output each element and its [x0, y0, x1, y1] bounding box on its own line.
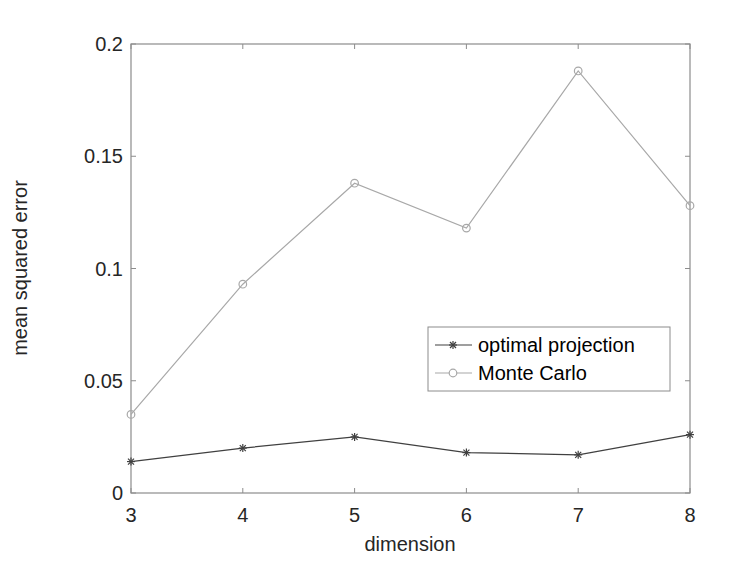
- y-tick-label: 0.1: [95, 258, 123, 280]
- x-tick-label: 4: [237, 504, 248, 526]
- chart: 00.050.10.150.2 345678 dimension mean sq…: [0, 0, 729, 575]
- legend-label-optimal-projection: optimal projection: [478, 334, 635, 356]
- plot-area: [131, 44, 690, 493]
- circle-icon: [449, 369, 457, 377]
- data-point: [462, 449, 470, 457]
- legend-label-monte-carlo: Monte Carlo: [478, 362, 587, 384]
- data-point: [686, 431, 694, 439]
- y-tick-label: 0.15: [84, 145, 123, 167]
- legend: optimal projection Monte Carlo: [428, 327, 670, 391]
- data-point: [239, 444, 247, 452]
- y-axis-label: mean squared error: [9, 180, 31, 356]
- x-tick-label: 7: [573, 504, 584, 526]
- y-tick-label: 0.05: [84, 370, 123, 392]
- asterisk-icon: [449, 341, 457, 349]
- y-tick-label: 0: [112, 482, 123, 504]
- data-point: [127, 458, 135, 466]
- data-point: [351, 433, 359, 441]
- y-tick-label: 0.2: [95, 33, 123, 55]
- x-tick-label: 8: [684, 504, 695, 526]
- data-point: [574, 451, 582, 459]
- x-axis-label: dimension: [364, 533, 455, 555]
- x-tick-label: 3: [125, 504, 136, 526]
- x-tick-label: 5: [349, 504, 360, 526]
- x-tick-label: 6: [461, 504, 472, 526]
